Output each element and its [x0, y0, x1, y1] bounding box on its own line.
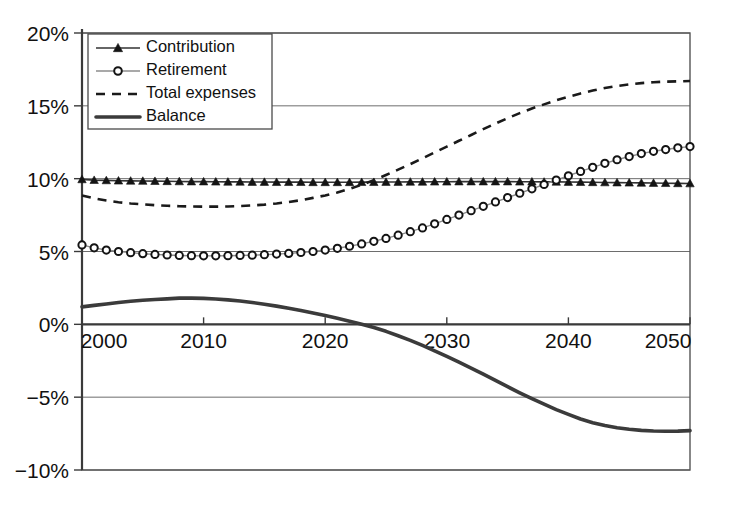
x-tick-label-2050: 2050	[645, 329, 692, 352]
data-point-marker	[249, 252, 256, 259]
data-point-marker	[540, 181, 547, 188]
data-point-marker	[164, 251, 171, 258]
y-tick-label-0: 0%	[39, 313, 69, 336]
data-point-marker	[455, 211, 462, 218]
data-point-marker	[565, 172, 572, 179]
data-point-marker	[553, 177, 560, 184]
legend-marker-circle-icon	[114, 67, 122, 75]
y-tick-label--10: −10%	[15, 459, 69, 482]
x-tick-label-2000: 2000	[81, 329, 128, 352]
data-point-marker	[334, 245, 341, 252]
legend-label: Balance	[146, 106, 206, 124]
data-point-marker	[601, 160, 608, 167]
legend-label: Retirement	[146, 60, 227, 78]
x-tick-label-2020: 2020	[302, 329, 349, 352]
data-point-marker	[516, 190, 523, 197]
data-point-marker	[662, 146, 669, 153]
data-point-marker	[443, 216, 450, 223]
data-point-marker	[686, 143, 693, 150]
data-point-marker	[309, 248, 316, 255]
data-point-marker	[419, 224, 426, 231]
data-point-marker	[613, 156, 620, 163]
y-tick-label-15: 15%	[27, 95, 69, 118]
data-point-marker	[224, 252, 231, 259]
data-point-marker	[407, 228, 414, 235]
data-point-marker	[127, 249, 134, 256]
line-chart: −10%−5%0%5%10%15%20% 2000201020202030204…	[0, 0, 735, 507]
y-tick-label-20: 20%	[27, 22, 69, 45]
data-point-marker	[236, 252, 243, 259]
data-point-marker	[212, 252, 219, 259]
legend-label: Contribution	[146, 37, 235, 55]
data-point-marker	[322, 246, 329, 253]
x-tick-label-2010: 2010	[180, 329, 227, 352]
data-point-marker	[468, 207, 475, 214]
data-point-marker	[176, 252, 183, 259]
data-point-marker	[674, 144, 681, 151]
y-tick-label-10: 10%	[27, 168, 69, 191]
data-point-marker	[638, 150, 645, 157]
chart-container: −10%−5%0%5%10%15%20% 2000201020202030204…	[0, 0, 735, 507]
data-point-marker	[431, 220, 438, 227]
data-point-marker	[395, 232, 402, 239]
data-point-marker	[91, 244, 98, 251]
data-point-marker	[78, 241, 85, 248]
y-tick-label-5: 5%	[39, 241, 69, 264]
data-point-marker	[346, 243, 353, 250]
x-tick-label-2040: 2040	[545, 329, 592, 352]
data-point-marker	[273, 251, 280, 258]
data-point-marker	[480, 203, 487, 210]
data-point-marker	[626, 153, 633, 160]
y-tick-label--5: −5%	[26, 386, 69, 409]
data-point-marker	[139, 250, 146, 257]
data-point-marker	[382, 235, 389, 242]
data-point-marker	[151, 251, 158, 258]
chart-legend: ContributionRetirementTotal expensesBala…	[88, 34, 272, 129]
data-point-marker	[370, 238, 377, 245]
data-point-marker	[504, 194, 511, 201]
data-point-marker	[188, 252, 195, 259]
data-point-marker	[492, 198, 499, 205]
data-point-marker	[285, 250, 292, 257]
data-point-marker	[103, 246, 110, 253]
data-point-marker	[261, 251, 268, 258]
data-point-marker	[650, 148, 657, 155]
legend-label: Total expenses	[146, 83, 256, 101]
data-point-marker	[577, 168, 584, 175]
data-point-marker	[297, 249, 304, 256]
data-point-marker	[358, 240, 365, 247]
data-point-marker	[589, 164, 596, 171]
data-point-marker	[528, 185, 535, 192]
data-point-marker	[200, 252, 207, 259]
data-point-marker	[115, 248, 122, 255]
